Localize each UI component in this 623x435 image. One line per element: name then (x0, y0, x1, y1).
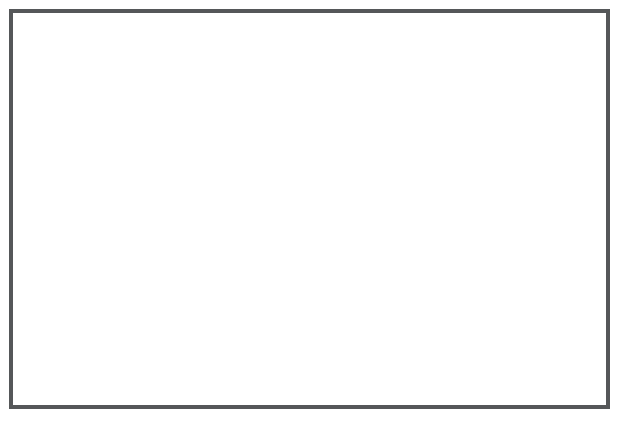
figure-border (9, 9, 610, 409)
chart-root: 012345 Test 1Test 2Test 3Test 4Test 5Tes… (0, 0, 623, 435)
